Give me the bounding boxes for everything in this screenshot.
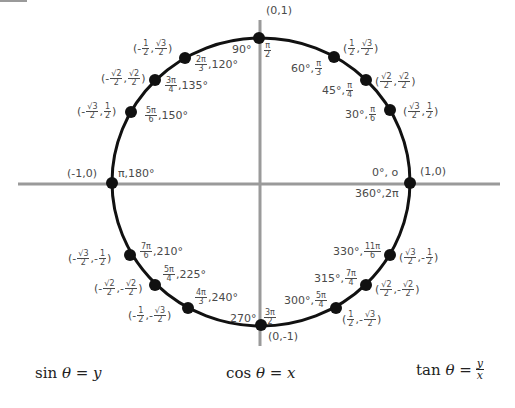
frac-den: 2: [383, 82, 390, 90]
deg-text: ,120°: [208, 59, 238, 70]
deg-text: ,135°: [178, 80, 208, 91]
frac-den: 2: [405, 290, 412, 298]
minus-sign: -: [105, 73, 109, 84]
minus-sign: -: [421, 252, 425, 263]
point-0: [404, 177, 416, 189]
frac-den: 2: [113, 79, 120, 87]
label-135-coord: (-√22,√22): [101, 70, 145, 87]
rhs: y: [93, 364, 101, 382]
frac-den: 2: [401, 82, 408, 90]
frac-den: 2: [106, 289, 113, 297]
frac-den: 6: [142, 252, 149, 260]
frac-den: 2: [383, 290, 390, 298]
label-150-angle: 5π6 ,150°: [144, 107, 188, 124]
frac-den: 2: [156, 316, 163, 324]
frac-den: x: [477, 370, 483, 381]
frac-den: 4: [347, 279, 354, 287]
label-45-angle: 45°, π4: [322, 82, 354, 99]
frac-den: 2: [407, 258, 414, 266]
frac-den: 3: [315, 69, 322, 77]
label-135-angle: 3π4 ,135°: [164, 77, 208, 94]
label-60-coord: (12,√32): [343, 40, 378, 57]
frac-den: 6: [369, 252, 376, 260]
point-330: [384, 249, 396, 261]
label-210-angle: 7π6 ,210°: [139, 243, 183, 260]
frac-den: 4: [167, 86, 174, 94]
label-300-coord: (12,-√32): [342, 311, 381, 328]
frac-den: 6: [369, 115, 376, 123]
frac-den: 3: [197, 298, 204, 306]
label-360-full: 360°,2π: [355, 188, 399, 199]
frac-den: 2: [426, 112, 433, 120]
label-225-angle: 5π4 ,225°: [162, 266, 206, 283]
label-30-coord: (√32,12): [403, 103, 438, 120]
label-330-coord: (√32,-12): [399, 249, 438, 266]
label-45-coord: (√22,√22): [375, 73, 415, 90]
frac-den: 6: [147, 116, 154, 124]
label-270-coord: (0,-1): [268, 331, 298, 342]
point-180: [106, 177, 118, 189]
minus-sign: -: [72, 253, 76, 264]
label-315-coord: (√22,-√22): [375, 281, 419, 298]
deg-text: 300°,: [284, 295, 314, 306]
label-270-degree: 270°: [230, 313, 257, 324]
formula-cosine: cos θ = x: [226, 364, 296, 382]
theta: θ: [62, 364, 71, 382]
label-240-coord: (-12,-√32): [128, 307, 171, 324]
label-90-coord: (0,1): [266, 5, 292, 16]
frac-den: 2: [128, 289, 135, 297]
frac-den: 4: [317, 301, 324, 309]
point-60: [328, 51, 340, 63]
deg-text: 330°,: [333, 246, 363, 257]
label-90-radian: π2: [263, 42, 272, 59]
theta: θ: [445, 361, 454, 379]
frac-den: 2: [137, 316, 144, 324]
unit-circle-diagram: [0, 0, 515, 408]
point-210: [124, 249, 136, 261]
label-150-coord: (-√32,12): [77, 103, 116, 120]
label-210-coord: (-√32,-12): [68, 250, 111, 267]
label-0-coord: (1,0): [420, 166, 446, 177]
minus-sign: -: [132, 310, 136, 321]
point-150: [125, 106, 137, 118]
deg-text: ,210°: [153, 246, 183, 257]
frac-den: 4: [346, 91, 353, 99]
point-315: [360, 279, 372, 291]
point-30: [384, 104, 396, 116]
deg-text: 315°,: [314, 273, 344, 284]
minus-sign: -: [98, 283, 102, 294]
label-225-coord: (-√22,-√22): [94, 280, 142, 297]
frac-den: 3: [197, 65, 204, 73]
frac-den: 2: [131, 79, 138, 87]
frac-den: 2: [366, 320, 373, 328]
deg-text: ,150°: [158, 110, 188, 121]
fn-name: tan: [416, 361, 441, 379]
label-240-angle: 4π3 ,240°: [194, 289, 238, 306]
frac-den: 2: [99, 259, 106, 267]
minus-sign: -: [137, 43, 141, 54]
equals: =: [76, 364, 89, 382]
label-300-angle: 300°, 5π4: [284, 292, 328, 309]
label-180-coord: (-1,0): [67, 168, 97, 179]
label-330-angle: 330°, 11π6: [333, 243, 382, 260]
frac-den: 2: [363, 49, 370, 57]
frac-den: 2: [157, 49, 164, 57]
point-120: [179, 52, 191, 64]
frac-den: 2: [264, 51, 271, 59]
frac-den: 2: [266, 318, 273, 326]
point-135: [149, 74, 161, 86]
deg-text: ,240°: [208, 292, 238, 303]
label-315-angle: 315°, 7π4: [314, 270, 358, 287]
equals: =: [270, 364, 283, 382]
minus-sign: -: [359, 314, 363, 325]
minus-sign: -: [94, 253, 98, 264]
deg-text: ,225°: [176, 269, 206, 280]
label-270-radian: 3π2: [263, 309, 277, 326]
rhs: x: [287, 364, 295, 382]
minus-sign: -: [397, 284, 401, 295]
label-120-angle: 2π3 ,120°: [194, 56, 238, 73]
fn-name: sin: [35, 364, 57, 382]
frac-den: 2: [104, 112, 111, 120]
point-225: [149, 279, 161, 291]
deg-text: 60°,: [291, 63, 314, 74]
